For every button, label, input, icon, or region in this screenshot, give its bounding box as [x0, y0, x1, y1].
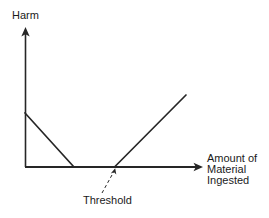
- descending-curve-segment: [25, 113, 74, 167]
- diagram-canvas: Harm Amount of Material Ingested Thresho…: [0, 0, 269, 218]
- x-axis-label-line-3: Ingested: [207, 175, 257, 186]
- threshold-leader-line: [102, 171, 114, 193]
- dashed-arrow-icon: [111, 168, 117, 174]
- y-axis-label: Harm: [12, 10, 39, 21]
- ascending-curve-segment: [115, 95, 187, 167]
- x-axis-label: Amount of Material Ingested: [207, 153, 257, 187]
- threshold-label: Threshold: [83, 195, 132, 206]
